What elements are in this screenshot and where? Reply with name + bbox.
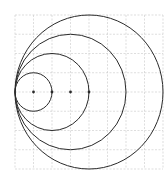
center-dot-4 — [88, 91, 91, 94]
nested-circles-diagram — [15, 15, 163, 169]
center-dot-1 — [32, 91, 35, 94]
center-dot-2 — [51, 91, 54, 94]
center-dot-3 — [69, 91, 72, 94]
